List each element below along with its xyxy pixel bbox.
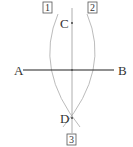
svg-text:2: 2 [90, 2, 95, 13]
step-label-2: 2 [88, 2, 97, 13]
bisector-diagram: 1 2 3 A B C D [0, 0, 133, 147]
label-b: B [118, 63, 127, 78]
label-d: D [60, 111, 69, 126]
label-a: A [14, 63, 24, 78]
point-c-dot [71, 22, 73, 24]
label-c: C [60, 16, 69, 31]
svg-text:1: 1 [45, 2, 50, 13]
midpoint-dot [71, 69, 73, 71]
svg-text:3: 3 [69, 134, 74, 145]
point-d-dot [71, 117, 73, 119]
step-label-1: 1 [43, 2, 52, 13]
step-label-3: 3 [67, 134, 76, 145]
